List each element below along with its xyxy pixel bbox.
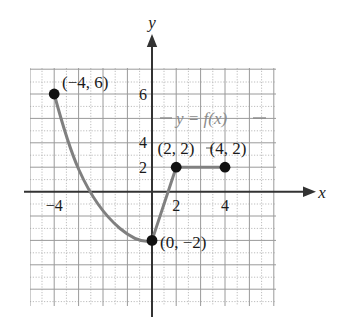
point-label-0-neg2: (0, −2) (160, 233, 206, 252)
graph-figure: 6 4 2 −4 2 4 x y y = f(x) (−4, 6) (2, 2)… (0, 0, 339, 317)
y-tick-label-4: 4 (139, 134, 147, 151)
y-axis-label: y (146, 13, 156, 32)
x-axis-label: x (317, 183, 326, 202)
function-label: y = f(x) (174, 109, 227, 128)
point-label-4-2: (4, 2) (210, 139, 247, 158)
y-tick-label-6: 6 (139, 86, 147, 103)
x-tick-label-neg4: −4 (46, 197, 63, 214)
point-label-neg4-6: (−4, 6) (62, 73, 108, 92)
coordinate-plane-svg: 6 4 2 −4 2 4 x y y = f(x) (−4, 6) (2, 2)… (0, 0, 339, 317)
y-axis (147, 34, 157, 317)
point-neg4-6 (49, 89, 60, 100)
x-tick-label-2: 2 (172, 197, 180, 214)
y-tick-label-2: 2 (139, 159, 147, 176)
x-tick-label-4: 4 (221, 197, 229, 214)
point-label-2-2: (2, 2) (158, 139, 195, 158)
point-2-2 (171, 162, 182, 173)
point-4-2 (220, 162, 231, 173)
point-0-neg2 (147, 235, 158, 246)
